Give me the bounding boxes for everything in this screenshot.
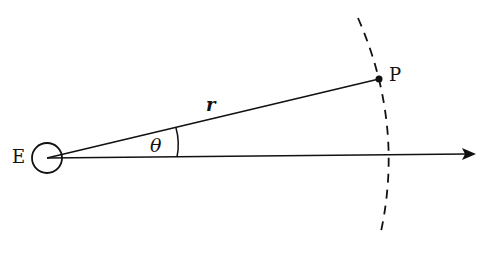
point-p-dot <box>376 76 383 83</box>
diagram-svg <box>0 0 489 253</box>
reference-axis-line <box>47 154 466 158</box>
diagram-canvas: E P r θ <box>0 0 489 253</box>
orbit-dashed-arc <box>358 18 389 236</box>
point-label: P <box>389 66 401 84</box>
earth-label: E <box>12 148 25 166</box>
angle-arc <box>176 128 178 157</box>
radius-line <box>47 79 379 158</box>
radius-label: r <box>206 96 215 114</box>
angle-label: θ <box>150 136 161 155</box>
